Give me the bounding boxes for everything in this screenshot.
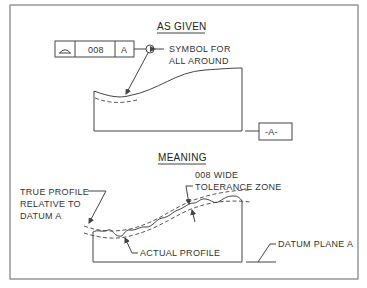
profile-of-surface-icon xyxy=(59,50,71,53)
part-outline xyxy=(94,68,242,131)
tolerance-zone-label-line1: 008 WIDE xyxy=(195,170,238,180)
meaning-title: MEANING xyxy=(158,152,207,163)
as-given-title: AS GIVEN xyxy=(157,21,207,32)
diagram-canvas: AS GIVEN 008 A SYMBOL FOR ALL AROUND -A-… xyxy=(0,0,367,288)
as-given-section: AS GIVEN 008 A SYMBOL FOR ALL AROUND -A- xyxy=(55,21,292,140)
datum-feature-label: -A- xyxy=(265,127,278,137)
true-profile-label-line3: DATUM A xyxy=(20,211,61,221)
tolerance-zone-upper xyxy=(84,190,250,231)
true-profile-label-line2: RELATIVE TO xyxy=(20,199,81,209)
datum-plane-label: DATUM PLANE A xyxy=(278,239,353,249)
true-profile-label-line1: TRUE PROFILE xyxy=(20,187,89,197)
all-around-icon xyxy=(146,45,154,53)
all-around-label-line1: SYMBOL FOR xyxy=(169,44,231,54)
actual-profile-label: ACTUAL PROFILE xyxy=(140,248,220,258)
datum-reference: A xyxy=(121,45,127,55)
tolerance-zone-lower xyxy=(84,201,250,238)
all-around-label-line2: ALL AROUND xyxy=(169,56,229,66)
tolerance-value: 008 xyxy=(88,45,104,55)
hidden-line xyxy=(95,98,137,102)
feature-control-frame: 008 A xyxy=(55,41,134,57)
meaning-section: MEANING 008 WIDE TOLERANCE ZONE TRUE PRO… xyxy=(20,152,353,262)
